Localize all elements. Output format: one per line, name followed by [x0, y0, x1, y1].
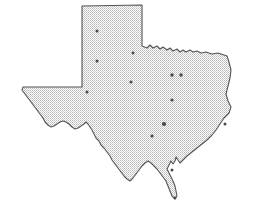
- city-marker-houston: [162, 122, 166, 126]
- city-marker-waco: [170, 98, 173, 101]
- city-marker-fort-worth: [170, 73, 173, 76]
- city-marker-austin-san-antonio: [150, 134, 153, 137]
- city-marker-abilene: [130, 81, 133, 84]
- city-marker-amarillo: [96, 30, 99, 33]
- city-marker-wichita-falls: [132, 52, 135, 55]
- city-marker-lubbock: [96, 60, 99, 63]
- texas-map-figure: [0, 0, 259, 217]
- texas-map-svg: [0, 0, 259, 217]
- city-marker-brownsville: [174, 197, 177, 200]
- city-marker-corpus-christi: [171, 169, 174, 172]
- city-marker-east-texas: [224, 123, 227, 126]
- city-marker-midland-odessa: [86, 91, 89, 94]
- city-marker-dallas: [179, 73, 182, 76]
